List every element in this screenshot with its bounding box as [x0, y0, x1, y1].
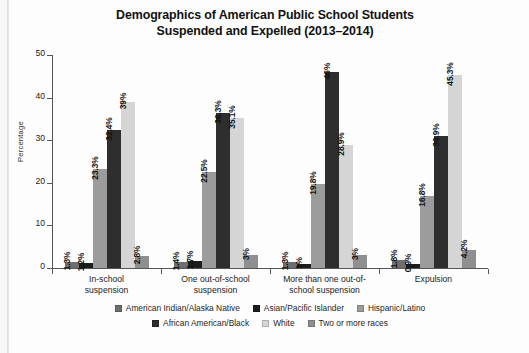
bar-slot: 32.4%	[107, 55, 121, 268]
bar-slot: 1.3%	[283, 55, 297, 268]
legend-swatch-icon	[357, 305, 364, 312]
bar[interactable]: 1.2%	[79, 263, 93, 268]
legend-row: American Indian/Alaska NativeAsian/Pacif…	[52, 303, 488, 313]
x-axis-category-label-line: One out-of-school	[156, 274, 276, 285]
bar-value-label: 16.8%	[417, 184, 427, 207]
bar-value-label: 1.3%	[280, 252, 290, 271]
bar-slot: 19.8%	[311, 55, 325, 268]
bar-slot: 30.9%	[434, 55, 448, 268]
x-axis-category-label-line: school suspension	[265, 285, 385, 296]
bar-slot: 3%	[353, 55, 367, 268]
bar[interactable]: 2.8%	[135, 256, 149, 268]
bar[interactable]: 1%	[297, 264, 311, 268]
bar-value-label: 19.8%	[308, 171, 318, 194]
bar[interactable]: 36.3%	[216, 113, 230, 268]
bar-value-label: 23.3%	[90, 156, 100, 179]
bar-value-label: 22.5%	[199, 160, 209, 183]
plot-area: 01020304050 1.3%1.2%23.3%32.4%39%2.8%1.4…	[52, 55, 488, 269]
bar[interactable]: 1.7%	[188, 261, 202, 268]
chart-page: Demographics of American Public School S…	[0, 0, 529, 353]
bar-slot: 39%	[121, 55, 135, 268]
bar[interactable]: 39%	[121, 102, 135, 268]
bar-slot: 36.3%	[216, 55, 230, 268]
bar-value-label: 36.3%	[213, 101, 223, 124]
chart-legend: American Indian/Alaska NativeAsian/Pacif…	[52, 303, 488, 333]
chart-title-line-1: Demographics of American Public School S…	[116, 8, 414, 22]
bar[interactable]: 32.4%	[107, 130, 121, 268]
x-axis-category-label-line: Expulsion	[374, 274, 494, 285]
bar-slot: 28.9%	[339, 55, 353, 268]
y-tick-mark	[47, 140, 52, 141]
legend-swatch-icon	[253, 305, 260, 312]
legend-item[interactable]: Asian/Pacific Islander	[253, 303, 344, 313]
bar[interactable]: 4.2%	[462, 250, 476, 268]
y-tick-label: 10	[35, 218, 45, 228]
bar-value-label: 1.2%	[76, 253, 86, 272]
bar-group-bars: 1.8%0.9%16.8%30.9%45.3%4.2%	[392, 55, 476, 268]
chart-title-line-2: Suspended and Expelled (2013–2014)	[40, 24, 490, 40]
bar-value-label: 30.9%	[431, 124, 441, 147]
bar-slot: 1.4%	[174, 55, 188, 268]
legend-label: Hispanic/Latino	[368, 303, 425, 313]
bar-value-label: 39%	[118, 93, 128, 109]
legend-item[interactable]: White	[262, 318, 294, 328]
bar-slot: 3%	[244, 55, 258, 268]
y-tick-mark	[47, 225, 52, 226]
y-tick-label: 40	[35, 91, 45, 101]
x-axis-category-label: One out-of-schoolsuspension	[156, 274, 276, 295]
bar[interactable]: 22.5%	[202, 172, 216, 268]
bar-slot: 45.3%	[448, 55, 462, 268]
bar-group: 1.4%1.7%22.5%36.3%35.1%3%	[174, 55, 258, 268]
bar[interactable]: 0.9%	[406, 264, 420, 268]
y-axis-title: Percentage	[16, 121, 25, 162]
x-axis-category-label: Expulsion	[374, 274, 494, 285]
legend-item[interactable]: African American/Black	[152, 318, 249, 328]
bar[interactable]: 46%	[325, 72, 339, 268]
legend-swatch-icon	[262, 320, 269, 327]
bar-slot: 22.5%	[202, 55, 216, 268]
legend-label: Two or more races	[319, 318, 388, 328]
x-axis-category-label-line: In-school	[47, 274, 167, 285]
bar-value-label: 1%	[294, 257, 304, 269]
bar-slot: 35.1%	[230, 55, 244, 268]
bar-group: 1.3%1.2%23.3%32.4%39%2.8%	[65, 55, 149, 268]
bar-group-bars: 1.3%1%19.8%46%28.9%3%	[283, 55, 367, 268]
bar-slot: 1%	[297, 55, 311, 268]
legend-label: White	[273, 318, 294, 328]
x-axis-category-label-line: suspension	[47, 285, 167, 296]
page-edge-shadow	[7, 0, 9, 353]
bar-group: 1.8%0.9%16.8%30.9%45.3%4.2%	[392, 55, 476, 268]
legend-item[interactable]: Two or more races	[308, 318, 388, 328]
bar[interactable]: 16.8%	[420, 196, 434, 268]
bar[interactable]: 3%	[244, 255, 258, 268]
bar-value-label: 0.9%	[403, 254, 413, 273]
legend-label: Asian/Pacific Islander	[264, 303, 344, 313]
bar-value-label: 45.3%	[445, 62, 455, 85]
bar[interactable]: 30.9%	[434, 136, 448, 268]
bar-value-label: 1.4%	[171, 252, 181, 271]
bar-slot: 1.8%	[392, 55, 406, 268]
y-tick-label: 50	[35, 48, 45, 58]
legend-row: African American/BlackWhiteTwo or more r…	[52, 318, 488, 328]
bar[interactable]: 19.8%	[311, 184, 325, 268]
bar-group-bars: 1.3%1.2%23.3%32.4%39%2.8%	[65, 55, 149, 268]
y-axis-line	[52, 55, 53, 269]
bar-slot: 46%	[325, 55, 339, 268]
bar-slot: 4.2%	[462, 55, 476, 268]
bar-value-label: 35.1%	[227, 106, 237, 129]
bar[interactable]: 23.3%	[93, 169, 107, 268]
legend-label: American Indian/Alaska Native	[126, 303, 240, 313]
bar-slot: 23.3%	[93, 55, 107, 268]
x-axis-category-label: In-schoolsuspension	[47, 274, 167, 295]
y-tick-mark	[47, 98, 52, 99]
bar[interactable]: 35.1%	[230, 118, 244, 268]
bar[interactable]: 3%	[353, 255, 367, 268]
legend-item[interactable]: Hispanic/Latino	[357, 303, 425, 313]
legend-label: African American/Black	[163, 318, 249, 328]
bar-value-label: 1.3%	[62, 252, 72, 271]
legend-swatch-icon	[152, 320, 159, 327]
bar-value-label: 2.8%	[132, 246, 142, 265]
legend-item[interactable]: American Indian/Alaska Native	[115, 303, 240, 313]
y-tick-label: 30	[35, 133, 45, 143]
x-axis-category-label: More than one out-of-school suspension	[265, 274, 385, 295]
